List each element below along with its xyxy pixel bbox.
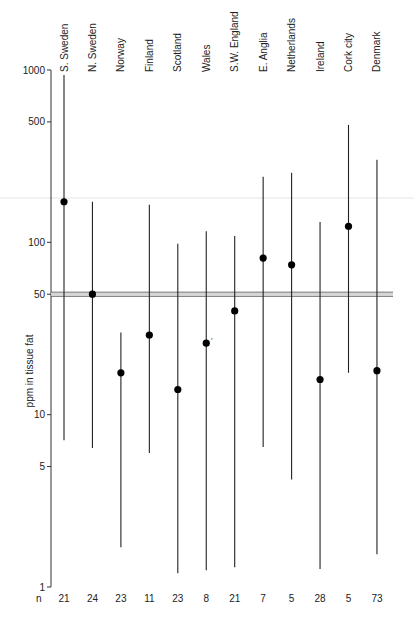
category-label: Cork city [343,33,354,72]
y-tick-label: 1 [39,582,45,593]
y-tick-label: 500 [28,116,45,127]
n-value: 7 [260,593,266,604]
range-denmark [373,160,380,554]
category-label: S. Sweden [59,24,70,72]
range-s-sweden [60,75,67,440]
reference-line-50 [51,292,393,296]
data-point [260,255,267,262]
range-e-anglia [260,177,267,447]
data-point [316,376,323,383]
data-point [373,367,380,374]
n-value: 5 [346,593,352,604]
data-point [174,386,181,393]
y-axis-title: ppm in tissue fat [24,334,35,407]
category-label: S.W. England [229,11,240,72]
category-label: Ireland [315,41,326,72]
range-wales [203,231,210,570]
n-value: 21 [58,593,70,604]
n-value: 11 [144,593,155,604]
data-point [89,291,96,298]
range-chart: 1000500100501051 S. SwedenN. SwedenNorwa… [0,0,414,631]
n-value: 23 [115,593,127,604]
range-norway [117,332,124,547]
data-point [345,223,352,230]
range-finland [146,205,153,453]
range-n-sweden [89,202,96,448]
range-netherlands [288,173,295,480]
category-label: Scotland [172,33,183,72]
data-point [117,369,124,376]
data-point [288,261,295,268]
category-label: Denmark [371,30,382,72]
category-label: Norway [115,38,126,72]
range-s-w-england [231,236,238,567]
n-value: 21 [229,593,241,604]
n-value: 23 [172,593,184,604]
y-tick-label: 1000 [23,65,46,76]
data-series [60,75,380,573]
range-cork-city [345,125,352,373]
y-tick-label: 50 [34,289,46,300]
y-tick-label: 5 [39,461,45,472]
category-label: E. Anglia [258,32,269,72]
y-tick-label: 100 [28,237,45,248]
n-value: 24 [87,593,99,604]
n-value: 28 [314,593,326,604]
wales-mark: ′ [211,336,213,345]
n-value: 5 [289,593,295,604]
data-point [60,198,67,205]
y-tick-label: 10 [34,409,46,420]
data-point [231,307,238,314]
n-row: n21242311238217528573 [36,593,383,604]
category-label: Finland [144,39,155,72]
data-point [146,331,153,338]
category-label: Netherlands [286,18,297,72]
range-ireland [316,222,323,569]
data-point [203,340,210,347]
n-value: 73 [371,593,383,604]
category-labels: S. SwedenN. SwedenNorwayFinlandScotlandW… [59,11,383,72]
category-label: Wales [201,45,212,72]
n-value: 8 [203,593,209,604]
category-label: N. Sweden [87,23,98,72]
y-axis: 1000500100501051 [23,65,51,593]
n-row-label: n [36,593,42,604]
